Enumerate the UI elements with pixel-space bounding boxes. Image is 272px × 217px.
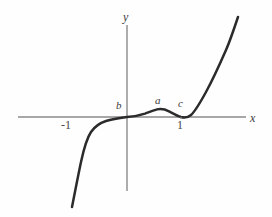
point-label-b: b: [116, 100, 122, 111]
y-axis-label: y: [123, 11, 128, 23]
function-curve: [72, 17, 238, 207]
x-tick-label-one: 1: [177, 119, 183, 131]
plot-canvas: [0, 0, 272, 217]
function-graph-figure: y x a b c -1 1: [0, 0, 272, 217]
point-label-c: c: [178, 98, 183, 109]
x-tick-label-negative-one: -1: [61, 119, 71, 131]
x-axis-label: x: [250, 112, 255, 124]
point-label-a: a: [155, 95, 161, 106]
